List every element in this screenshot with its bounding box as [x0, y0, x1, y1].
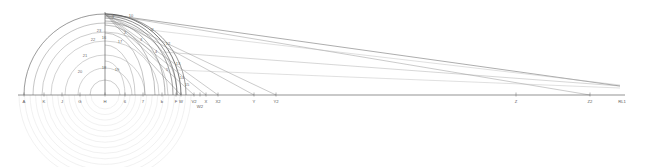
baseline-label-z: Z	[515, 99, 518, 104]
baseline-label-rl1: RL1	[618, 99, 626, 104]
arc-label-19: 19	[115, 67, 120, 72]
baseline-label-z2: Z2	[588, 99, 594, 104]
arc-label-16: 16	[102, 35, 107, 40]
baseline-label-x2: X2	[215, 99, 221, 104]
arc-label-17: 17	[118, 39, 123, 44]
arc-label-23: 23	[97, 28, 102, 33]
figure-canvas: AKJGH67bFWV2XW2X2YY2ZZ2RL1 1101123124135…	[0, 0, 651, 167]
baseline-label-x: X	[205, 99, 208, 104]
baseline-label-j: J	[61, 99, 63, 104]
ray-to-X2	[105, 14, 218, 95]
bundle-arc-6	[105, 33, 145, 95]
baseline-label-y: Y	[253, 99, 256, 104]
baseline-label-a: A	[23, 99, 26, 104]
arc-label-13: 13	[176, 61, 181, 66]
arc-label-22: 22	[91, 37, 96, 42]
baseline-label-b: b	[161, 99, 164, 104]
ray-horizon-1	[163, 52, 620, 86]
arc-label-5: 5	[166, 67, 169, 72]
baseline-label-w2: W2	[197, 104, 204, 109]
arc-label-2: 2	[124, 30, 127, 35]
baseline-label-k: K	[43, 99, 46, 104]
bundle-arc-2	[105, 16, 177, 95]
construction-drawing-svg: AKJGH67bFWV2XW2X2YY2ZZ2RL1 1101123124135…	[0, 0, 651, 167]
arc-label-20: 20	[78, 69, 83, 74]
baseline-tick-marks	[24, 93, 590, 97]
baseline-label-7: 7	[142, 99, 145, 104]
baseline-label-h: H	[103, 99, 106, 104]
baseline-label-6: 6	[124, 99, 127, 104]
lower-concentric-construction-arcs	[19, 95, 191, 167]
ray-to-Z2	[105, 14, 590, 95]
arc-label-21: 21	[83, 53, 88, 58]
arc-label-3: 3	[140, 37, 143, 42]
baseline-label-f: F	[175, 99, 178, 104]
ghost-arc	[41, 95, 169, 159]
baseline-label-y2: Y2	[273, 99, 279, 104]
baseline-label-g: G	[78, 99, 81, 104]
arc-label-15: 15	[185, 82, 190, 87]
arc-label-14: 14	[180, 75, 185, 80]
arc-label-11: 11	[150, 27, 155, 32]
arc-label-10: 10	[129, 13, 134, 18]
bundle-arc-3	[105, 18, 173, 95]
bundle-arc-7	[105, 45, 135, 95]
ghost-arc	[36, 95, 175, 164]
arc-label-12: 12	[166, 41, 171, 46]
baseline-label-w: W	[179, 99, 183, 104]
baseline-point-labels: AKJGH67bFWV2XW2X2YY2ZZ2RL1	[23, 99, 627, 109]
arc-label-18: 18	[102, 65, 107, 70]
ray-to-Y	[105, 14, 254, 95]
radiating-perspective-lines	[105, 14, 620, 95]
